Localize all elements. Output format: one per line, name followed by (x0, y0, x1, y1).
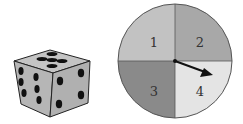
die-pip-left (36, 96, 41, 104)
illustration: 1 2 3 4 (0, 0, 243, 124)
spinner-section-1 (118, 4, 175, 61)
die-pip-right (57, 77, 63, 85)
die-pip-left (21, 89, 26, 97)
die-pip-top (47, 52, 58, 56)
die-pip-right (56, 100, 62, 108)
die-pip-left (33, 73, 38, 81)
spinner-label-1: 1 (150, 35, 158, 50)
die-pip-left (18, 67, 23, 75)
spinner-label-4: 4 (196, 84, 204, 99)
die-pip-top (47, 64, 58, 68)
die-pip-right (78, 91, 84, 99)
spinner-pivot (173, 59, 177, 63)
spinner-section-2 (175, 4, 232, 61)
die (14, 50, 90, 117)
spinner-section-3 (118, 61, 175, 118)
spinner-label-3: 3 (150, 84, 158, 99)
spinner-label-2: 2 (196, 35, 204, 50)
spinner: 1 2 3 4 (118, 4, 232, 118)
die-pip-left (34, 85, 39, 93)
die-pip-top (37, 57, 48, 61)
die-pip-left (18, 78, 23, 86)
die-pip-right (78, 69, 84, 77)
die-pip-top (57, 59, 68, 63)
die-pip-top (47, 58, 58, 62)
